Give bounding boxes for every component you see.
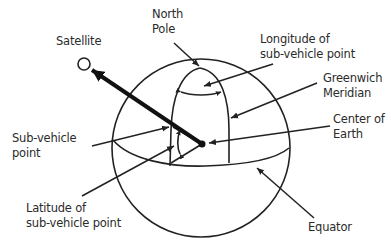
latitude-label-line: sub-vehicle point: [26, 216, 121, 231]
sub-vehicle-pointer: [92, 127, 169, 146]
longitude-label: Longitude of sub-vehicle point: [260, 32, 355, 62]
earth-center-dot: [199, 141, 206, 148]
earth-sphere: [112, 59, 290, 237]
satellite-icon: [78, 58, 90, 70]
center-pointer: [209, 126, 330, 143]
greenwich-pointer: [231, 83, 317, 118]
equator-radius-line: [171, 144, 202, 163]
latitude-angle-arc: [178, 130, 180, 154]
sub-vehicle-label: Sub-vehicle point: [12, 131, 77, 161]
center-of-earth-label: Center of Earth: [333, 112, 385, 142]
north-pole-label-line: Pole: [152, 22, 183, 37]
sub-vehicle-label-line: Sub-vehicle: [12, 131, 77, 146]
greenwich-label-line: Greenwich: [323, 71, 382, 86]
center-label-line: Earth: [333, 127, 385, 142]
satellite-label: Satellite: [56, 34, 101, 49]
north-pole-label-line: North: [152, 7, 183, 22]
satellite-label-line: Satellite: [56, 34, 101, 49]
longitude-angle-arc: [181, 92, 221, 95]
equator-label: Equator: [308, 220, 352, 235]
greenwich-label-line: Meridian: [323, 86, 382, 101]
equator-label-line: Equator: [308, 220, 352, 235]
latitude-label-line: Latitude of: [26, 201, 121, 216]
north-pole-label: North Pole: [152, 7, 183, 37]
longitude-label-line: sub-vehicle point: [260, 47, 355, 62]
latitude-label: Latitude of sub-vehicle point: [26, 201, 121, 231]
diagram-canvas: Satellite North Pole Longitude of sub-ve…: [0, 0, 391, 247]
greenwich-label: Greenwich Meridian: [323, 71, 382, 101]
sub-vehicle-meridian-line: [170, 68, 200, 166]
longitude-label-line: Longitude of: [260, 32, 355, 47]
latitude-pointer: [82, 146, 174, 196]
sub-vehicle-label-line: point: [12, 146, 77, 161]
center-label-line: Center of: [333, 112, 385, 127]
